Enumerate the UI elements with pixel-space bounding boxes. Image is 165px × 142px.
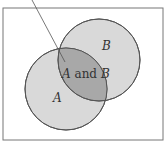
label-intersection-a: A	[61, 67, 71, 81]
label-a: A	[52, 91, 62, 105]
label-b: B	[101, 39, 111, 53]
label-intersection-and: and	[71, 67, 101, 81]
label-intersection-b: B	[100, 67, 110, 81]
label-intersection: A and B	[61, 67, 110, 81]
venn-diagram: B A A and B	[0, 0, 165, 142]
